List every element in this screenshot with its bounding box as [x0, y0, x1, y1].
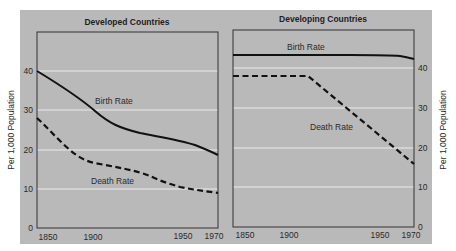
- x-tick-labels: 1850 1900 1950 1970: [39, 231, 224, 242]
- svg-text:1970: 1970: [205, 231, 224, 241]
- birth-rate-line: [37, 71, 218, 155]
- svg-text:1900: 1900: [280, 230, 299, 240]
- svg-text:1950: 1950: [174, 231, 193, 241]
- svg-text:20: 20: [418, 143, 428, 153]
- chart-figure: Developed Countries 0 10 20 30 40 1850 1…: [0, 0, 456, 251]
- svg-text:0: 0: [28, 223, 33, 233]
- y-tick-labels: 0 10 20 30 40: [418, 63, 428, 232]
- death-rate-line: [233, 76, 414, 164]
- svg-text:40: 40: [24, 66, 34, 76]
- birth-rate-label: Birth Rate: [287, 42, 325, 52]
- svg-text:10: 10: [418, 182, 428, 192]
- y-tick-labels: 0 10 20 30 40: [24, 66, 34, 233]
- x-tick-labels: 1850 1900 1950 1970: [236, 230, 421, 240]
- birth-rate-line: [233, 55, 414, 59]
- svg-text:10: 10: [24, 184, 34, 194]
- svg-text:1950: 1950: [371, 230, 390, 240]
- svg-text:40: 40: [418, 63, 428, 73]
- death-rate-label: Death Rate: [310, 122, 353, 132]
- panel-title: Developing Countries: [279, 14, 367, 24]
- svg-text:1900: 1900: [84, 232, 103, 242]
- svg-text:1850: 1850: [39, 232, 58, 242]
- panel-title: Developed Countries: [84, 17, 169, 27]
- death-rate-label: Death Rate: [91, 176, 134, 186]
- y-axis-label: Per 1,000 Population: [438, 90, 448, 170]
- birth-rate-label: Birth Rate: [95, 96, 133, 106]
- svg-text:30: 30: [24, 105, 34, 115]
- svg-text:1970: 1970: [402, 230, 421, 240]
- svg-text:20: 20: [24, 145, 34, 155]
- y-axis-label: Per 1,000 Population: [6, 90, 16, 170]
- svg-text:30: 30: [418, 103, 428, 113]
- panel-developed: Developed Countries 0 10 20 30 40 1850 1…: [6, 17, 224, 242]
- svg-text:1850: 1850: [236, 230, 255, 240]
- panel-developing: Developing Countries 0 10 20 30 40 1850 …: [233, 14, 448, 240]
